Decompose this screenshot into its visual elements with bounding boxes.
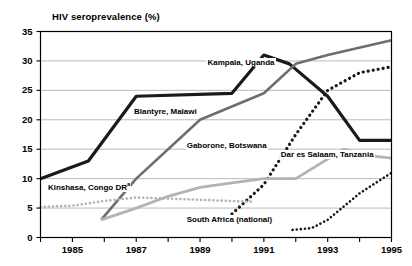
x-tick-label-1989: 1989 [180,245,220,255]
series-annotation-dar-es-salaam-tanzania: Dar es Salaam, Tanzania [280,150,375,159]
chart-plot-area [0,0,412,266]
x-tick-label-1993: 1993 [308,245,348,255]
series-annotation-kinshasa-congo-dr: Kinshasa, Congo DRa [47,183,131,192]
y-tick-label-5: 5 [7,203,33,213]
annotation-text: South Africa (national) [187,215,272,224]
y-tick-label-0: 0 [7,233,33,243]
chart-container: HIV seroprevalence (%) 05101520253035 19… [0,0,412,266]
annotation-text: Kinshasa, Congo DR [48,183,127,192]
series-annotation-south-africa-national: South Africa (national) [186,215,273,224]
x-tick-label-1987: 1987 [116,245,156,255]
annotation-text: Blantyre, Malawi [134,107,197,116]
x-tick-label-1991: 1991 [244,245,284,255]
x-tick-label-1995: 1995 [372,245,412,255]
x-tick-label-1985: 1985 [52,245,92,255]
annotation-text: Kampala, Uganda [207,58,274,67]
y-tick-label-20: 20 [7,115,33,125]
y-tick-label-15: 15 [7,144,33,154]
series-annotation-gaborone-botswana: Gaborone, Botswana [186,141,268,150]
annotation-text: Gaborone, Botswana [187,141,267,150]
y-tick-label-10: 10 [7,174,33,184]
y-tick-label-25: 25 [7,85,33,95]
series-annotation-kampala-uganda: Kampala, Uganda [206,58,275,67]
series-annotation-blantyre-malawi: Blantyre, Malawi [133,107,198,116]
annotation-text: Dar es Salaam, Tanzania [281,150,374,159]
y-tick-label-35: 35 [7,27,33,37]
y-tick-label-30: 30 [7,56,33,66]
annotation-superscript: a [127,181,130,187]
